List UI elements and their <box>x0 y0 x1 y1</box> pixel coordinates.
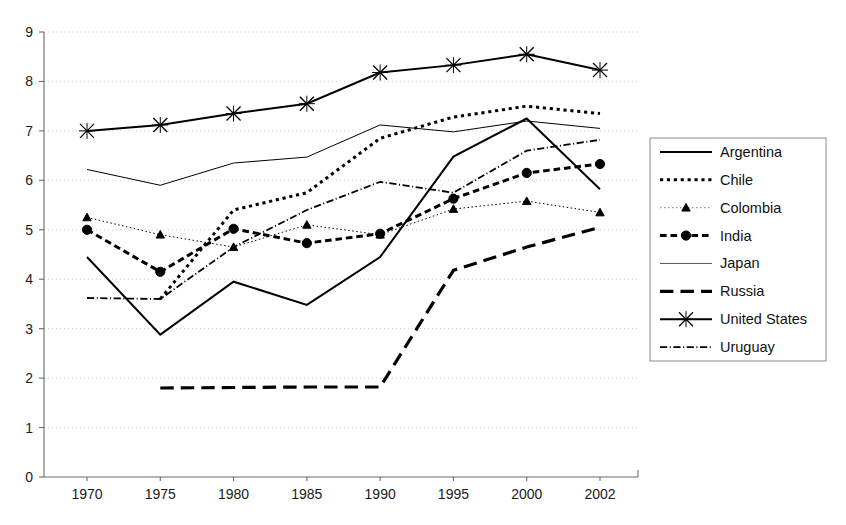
y-tick-label: 7 <box>25 123 33 139</box>
y-tick-label: 4 <box>25 271 33 287</box>
x-tick-label: 1970 <box>71 486 102 502</box>
marker-circle <box>156 267 165 276</box>
y-tick-label: 1 <box>25 420 33 436</box>
legend-label: Japan <box>720 255 760 271</box>
chart-canvas: 0123456789 19701975198019851990199520002… <box>0 0 846 525</box>
x-tick-label: 1985 <box>291 486 322 502</box>
y-tick-label: 0 <box>25 469 33 485</box>
legend-label: Argentina <box>720 144 783 160</box>
marker-circle <box>449 194 458 203</box>
chart-legend: ArgentinaChileColombiaIndiaJapanRussiaUn… <box>650 138 826 361</box>
y-tick-label: 2 <box>25 370 33 386</box>
y-tick-label: 3 <box>25 321 33 337</box>
legend-label: Uruguay <box>720 339 776 355</box>
y-tick-label: 6 <box>25 172 33 188</box>
marker-circle <box>681 231 690 240</box>
x-tick-label: 1975 <box>145 486 176 502</box>
marker-circle <box>82 225 91 234</box>
marker-circle <box>302 239 311 248</box>
line-chart: 0123456789 19701975198019851990199520002… <box>0 0 846 525</box>
marker-circle <box>595 159 604 168</box>
y-tick-label: 5 <box>25 222 33 238</box>
x-tick-label: 2000 <box>511 486 542 502</box>
legend-label: Chile <box>720 172 753 188</box>
legend-label: Russia <box>720 283 765 299</box>
legend-label: Colombia <box>720 200 782 216</box>
x-tick-label: 1980 <box>218 486 249 502</box>
marker-circle <box>522 168 531 177</box>
y-tick-label: 8 <box>25 73 33 89</box>
x-tick-label: 2002 <box>584 486 615 502</box>
x-tick-label: 1995 <box>438 486 469 502</box>
legend-label: United States <box>720 311 807 327</box>
y-tick-label: 9 <box>25 24 33 40</box>
marker-circle <box>229 224 238 233</box>
x-tick-label: 1990 <box>365 486 396 502</box>
marker-circle <box>376 229 385 238</box>
legend-label: India <box>720 228 752 244</box>
